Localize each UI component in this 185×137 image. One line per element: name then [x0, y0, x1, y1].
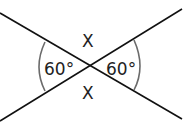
angle-diagram: 60° 60° X X [0, 0, 185, 137]
line-descending [0, 13, 182, 119]
right-angle-label: 60° [106, 59, 136, 79]
line-ascending [0, 9, 182, 121]
bottom-angle-label: X [82, 83, 94, 103]
top-angle-label: X [82, 31, 94, 51]
left-angle-label: 60° [44, 59, 74, 79]
